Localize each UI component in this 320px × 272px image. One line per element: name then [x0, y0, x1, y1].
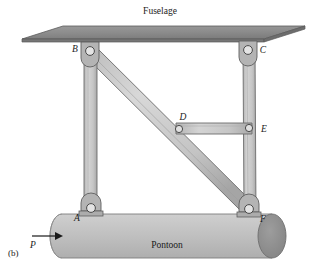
- pin-E: [245, 124, 252, 131]
- joint-bracket-C: [239, 41, 257, 66]
- fuselage-top-face: [22, 26, 305, 39]
- pontoon-cylinder: [50, 214, 272, 258]
- joint-label-F: F: [259, 214, 266, 224]
- joint-label-E: E: [260, 124, 267, 134]
- joint-label-A: A: [73, 213, 80, 223]
- strut-assembly-diagram: Fuselage Pontoon P (b) B C D E A F: [0, 0, 320, 272]
- fuselage-label: Fuselage: [143, 6, 177, 16]
- member-horizontal-strut-DE: [176, 123, 252, 134]
- left-column-bar: [84, 50, 97, 213]
- pin-B: [86, 47, 95, 56]
- force-label-P: P: [29, 240, 36, 250]
- fuselage-front-edge: [22, 39, 264, 42]
- figure-container: Fuselage Pontoon P (b) B C D E A F: [0, 0, 320, 272]
- joint-label-C: C: [260, 45, 267, 55]
- figure-caption: (b): [8, 248, 19, 258]
- member-left-column-BA: [84, 50, 97, 213]
- pin-A: [87, 204, 96, 213]
- joint-label-D: D: [179, 112, 187, 122]
- pin-D: [175, 125, 182, 132]
- pontoon-body: [50, 214, 286, 258]
- pin-C: [244, 46, 253, 55]
- pin-F: [245, 205, 254, 214]
- joint-label-B: B: [72, 44, 78, 54]
- joint-bracket-A: [79, 193, 103, 216]
- pontoon-label: Pontoon: [151, 240, 183, 250]
- horizontal-strut-bar: [176, 123, 252, 134]
- fuselage-plate: [22, 26, 305, 42]
- joint-bracket-B: [81, 42, 99, 67]
